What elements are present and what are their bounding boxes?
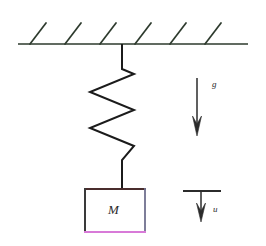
diagram-canvas (0, 0, 266, 246)
ceiling-hatch-6 (205, 23, 221, 44)
ceiling-hatch-1 (30, 23, 46, 44)
spring-group (90, 44, 134, 189)
displacement-label: u (213, 205, 218, 214)
ceiling-hatch-3 (100, 23, 116, 44)
ceiling-hatch-4 (135, 23, 151, 44)
mass-spring-diagram: g u M (0, 0, 266, 246)
mass-label: M (108, 203, 119, 216)
fixed-support-group (18, 23, 248, 44)
spring-zigzag (90, 44, 134, 189)
ceiling-hatch-2 (65, 23, 81, 44)
ceiling-hatch-5 (170, 23, 186, 44)
gravity-arrow-group (193, 78, 202, 136)
gravity-label: g (212, 80, 217, 89)
